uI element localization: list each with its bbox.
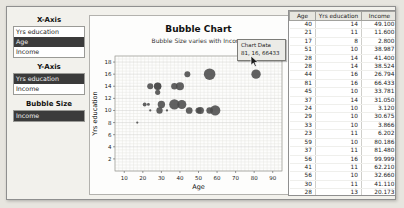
table-row[interactable]: 441626.794	[290, 71, 397, 79]
table-cell: 28	[290, 54, 316, 62]
table-cell: 41	[290, 163, 316, 171]
table-cell: 11	[316, 147, 362, 155]
table-cell: 99.999	[362, 155, 397, 163]
table-row[interactable]: 561699.999	[290, 155, 397, 163]
svg-text:90: 90	[269, 175, 276, 181]
table-cell: 14	[316, 96, 362, 104]
table-cell: 11	[316, 130, 362, 138]
column-header-income: Income	[362, 12, 397, 21]
table-row[interactable]: 281441.400	[290, 54, 397, 62]
table-cell: 38.987	[362, 46, 397, 54]
table-row[interactable]: 811666.433	[290, 79, 397, 87]
table-row[interactable]: 211111.600	[290, 29, 397, 37]
option-income[interactable]: Income	[14, 84, 84, 94]
bubble[interactable]	[136, 121, 138, 123]
option-age[interactable]: Age	[14, 37, 84, 47]
bubble[interactable]	[195, 107, 201, 113]
table-row[interactable]: 33103.866	[290, 121, 397, 129]
bubble[interactable]	[166, 109, 168, 111]
table-cell: 29	[290, 113, 316, 121]
table-row[interactable]: 281320.173	[290, 189, 397, 196]
bubble-size-label: Bubble Size	[13, 100, 85, 108]
table-cell: 37	[290, 147, 316, 155]
svg-text:30: 30	[158, 175, 165, 181]
x-axis-listbox[interactable]: Yrs educationAgeIncome	[13, 26, 85, 58]
table-cell: 13	[316, 189, 362, 196]
bubble[interactable]	[177, 100, 186, 109]
bubble[interactable]	[156, 107, 162, 113]
table-cell: 11.600	[362, 29, 397, 37]
bubble[interactable]	[206, 107, 213, 114]
table-cell: 51	[290, 46, 316, 54]
bubble[interactable]	[147, 103, 150, 106]
bubble[interactable]	[158, 101, 165, 108]
table-cell: 14	[316, 54, 362, 62]
table-cell: 8	[316, 37, 362, 45]
table-row[interactable]: 591080.186	[290, 138, 397, 146]
table-cell: 10	[316, 121, 362, 129]
svg-text:Age: Age	[192, 183, 205, 191]
bubble[interactable]	[147, 83, 153, 89]
svg-text:50: 50	[195, 175, 202, 181]
table-row[interactable]: 281438.524	[290, 63, 397, 71]
table-cell: 45	[290, 88, 316, 96]
table-cell: 62.210	[362, 163, 397, 171]
table-cell: 33.781	[362, 88, 397, 96]
bubble[interactable]	[186, 107, 193, 114]
table-cell: 10	[316, 105, 362, 113]
option-yrs-education[interactable]: Yrs education	[14, 27, 84, 37]
svg-text:8: 8	[108, 120, 112, 126]
x-axis-label: X-Axis	[13, 16, 85, 24]
table-cell: 10	[316, 172, 362, 180]
svg-text:14: 14	[105, 83, 112, 89]
table-cell: 30.675	[362, 113, 397, 121]
table-cell: 40	[290, 21, 316, 29]
table-row[interactable]: 301141.110	[290, 180, 397, 188]
table-cell: 11	[316, 180, 362, 188]
table-row[interactable]: 1782.800	[290, 37, 397, 45]
table-cell: 11	[316, 163, 362, 171]
table-cell: 44	[290, 71, 316, 79]
column-header-yrs-education: Yrs education	[316, 12, 362, 21]
table-cell: 16	[316, 155, 362, 163]
option-income[interactable]: Income	[14, 111, 84, 121]
table-row[interactable]: 371181.480	[290, 147, 397, 155]
table-row[interactable]: 291030.675	[290, 113, 397, 121]
bubble[interactable]	[155, 90, 160, 95]
table-cell: 26.794	[362, 71, 397, 79]
table-cell: 17	[290, 37, 316, 45]
table-row[interactable]: 401449.100	[290, 21, 397, 29]
bubble[interactable]	[154, 83, 161, 90]
bubble[interactable]	[204, 68, 215, 79]
table-row[interactable]: 451033.781	[290, 88, 397, 96]
svg-text:4: 4	[108, 144, 112, 150]
table-cell: 14	[316, 63, 362, 71]
y-axis-listbox[interactable]: Yrs educationIncome	[13, 73, 85, 95]
option-yrs-education[interactable]: Yrs education	[14, 74, 84, 84]
svg-text:12: 12	[105, 95, 112, 101]
bubble-size-listbox[interactable]: Income	[13, 110, 85, 122]
bubble[interactable]	[149, 109, 151, 111]
svg-text:Bubble Size varies with Income: Bubble Size varies with Income	[152, 37, 246, 44]
bubble[interactable]	[143, 102, 147, 106]
table-row[interactable]: 511038.987	[290, 46, 397, 54]
table-row[interactable]: 411162.210	[290, 163, 397, 171]
table-row[interactable]: 23116.202	[290, 130, 397, 138]
table-cell: 2.800	[362, 37, 397, 45]
table-cell: 10	[316, 88, 362, 96]
table-row[interactable]: 561032.660	[290, 172, 397, 180]
table-cell: 30	[290, 180, 316, 188]
bubble[interactable]	[171, 83, 177, 89]
table-cell: 16	[316, 71, 362, 79]
data-table: Age Yrs education Income 401449.10021111…	[289, 11, 396, 196]
table-row[interactable]: 371431.050	[290, 96, 397, 104]
bubble[interactable]	[251, 69, 260, 78]
svg-text:2: 2	[108, 156, 112, 162]
svg-text:70: 70	[232, 175, 239, 181]
option-income[interactable]: Income	[14, 47, 84, 57]
svg-text:10: 10	[105, 107, 112, 113]
table-row[interactable]: 24103.120	[290, 105, 397, 113]
table-cell: 38.524	[362, 63, 397, 71]
bubble[interactable]	[184, 71, 190, 77]
table-cell: 16	[316, 79, 362, 87]
